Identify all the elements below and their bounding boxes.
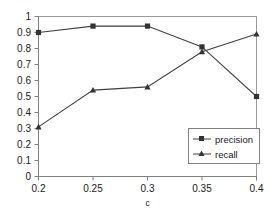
chart-canvas: 1 0.9 0.8 0.7 0.6 0.5 0.4 0.3 0.2 0.1 0 … bbox=[0, 0, 269, 213]
x-tick-label: 0.25 bbox=[83, 183, 103, 194]
y-tick-label: 0.1 bbox=[17, 155, 31, 166]
square-marker-icon bbox=[145, 24, 150, 29]
square-marker-icon bbox=[36, 30, 41, 35]
square-marker-icon bbox=[90, 24, 95, 29]
y-tick-label: 0.7 bbox=[17, 59, 31, 70]
x-axis-title: c bbox=[145, 198, 150, 208]
square-marker-icon bbox=[199, 136, 204, 141]
x-axis-ticks bbox=[39, 177, 257, 181]
y-tick-label: 0.6 bbox=[17, 75, 31, 86]
y-tick-label: 0.5 bbox=[17, 91, 31, 102]
legend-label-precision: precision bbox=[215, 134, 253, 145]
y-tick-label: 0.8 bbox=[17, 43, 31, 54]
square-marker-icon bbox=[254, 94, 259, 99]
y-tick-label: 0.4 bbox=[17, 107, 31, 118]
y-tick-label: 0.2 bbox=[17, 139, 31, 150]
x-tick-label: 0.4 bbox=[250, 183, 264, 194]
x-tick-label: 0.35 bbox=[192, 183, 212, 194]
y-tick-label: 1 bbox=[25, 11, 31, 22]
y-axis-ticks bbox=[35, 17, 39, 177]
chart-legend: precision recall bbox=[189, 129, 260, 164]
y-tick-label: 0 bbox=[25, 171, 31, 182]
legend-label-recall: recall bbox=[215, 149, 238, 160]
y-tick-label: 0.9 bbox=[17, 27, 31, 38]
x-tick-label: 0.3 bbox=[141, 183, 155, 194]
x-tick-label: 0.2 bbox=[32, 183, 46, 194]
y-tick-label: 0.3 bbox=[17, 123, 31, 134]
line-chart-figure: 1 0.9 0.8 0.7 0.6 0.5 0.4 0.3 0.2 0.1 0 … bbox=[0, 0, 269, 213]
